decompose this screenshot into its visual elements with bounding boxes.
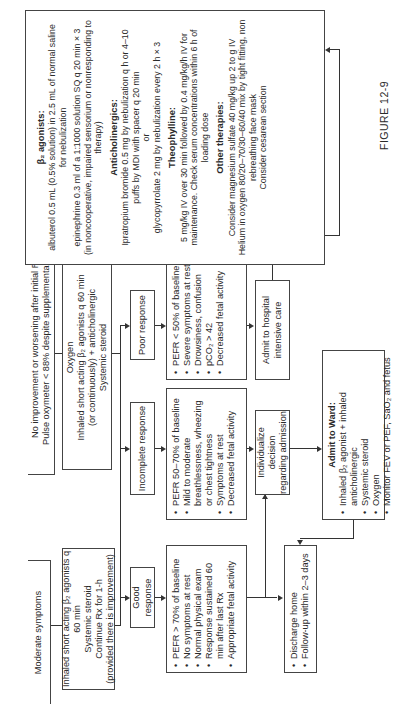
criteria-item: Appropriate fetal activity: [226, 551, 237, 667]
good-response-details: PEFR > 70% of baseline No symptoms at re…: [166, 545, 247, 673]
therapy-text: Helium in oxygen 80/20–70/30–60/40 mix b…: [237, 19, 258, 256]
criteria-item: Mild to moderate breathlessness, wheezin…: [182, 394, 215, 514]
admit-icu-box: Admit to hospital intensive care: [255, 280, 290, 380]
connector: [51, 625, 62, 626]
connector: [290, 448, 317, 449]
poor-response-box: Poor response: [130, 290, 155, 360]
therapy-text: Consider magnesium sulfate 40 mg/kg up 2…: [227, 19, 238, 256]
criteria-item: Symptoms at rest: [215, 394, 226, 514]
ward-title: Admit to Ward:: [327, 356, 338, 514]
connector: [353, 520, 354, 539]
therapy-text: glycopyrrolate 2 mg by nebulization ever…: [152, 19, 163, 256]
oxygen-rx-line: Systemic steroid: [98, 324, 109, 391]
discharge-home-box: Discharge home Follow-up within 2–3 days: [284, 545, 317, 673]
connector: [55, 353, 62, 354]
connector: [300, 538, 354, 539]
incomplete-response-box: Incomplete response: [130, 402, 155, 495]
icu-line: Admit to hospital: [261, 296, 272, 364]
moderate-symptoms: Moderate symptoms: [28, 560, 51, 704]
oxygen-rx-line: Inhaled short acting β₂ agonists q 60 mi…: [76, 274, 87, 440]
initial-rx-line: (provided there is improvement): [105, 554, 116, 684]
therapy-text: epinephrine 0.3 ml of a 1:1000 solution …: [72, 19, 83, 256]
criteria-item: No symptoms at rest: [182, 551, 193, 667]
connector: [247, 597, 277, 598]
criteria-item: PEFR > 70% of baseline: [171, 551, 182, 667]
initial-rx-line: Continue Rx for 1-h: [94, 579, 105, 659]
therapy-text: Ipratropium bromide 0.5 mg by nebulizati…: [120, 19, 141, 256]
individualize-decision-box: Individualize decision regarding admissi…: [255, 410, 290, 495]
good-response-box: Good response: [130, 567, 155, 628]
therapy-text: (in noncooperative, impaired sensorium o…: [83, 19, 104, 256]
criteria-item: PEFR 50–70% of baseline: [171, 394, 182, 514]
ward-item: Oxygen: [371, 356, 382, 514]
ward-item: Monitor FEV or PEF, SaO₂ and fetus: [382, 356, 393, 514]
criteria-item: Decreased fetal activity: [226, 394, 237, 514]
flowchart: Moderate symptoms Inhaled short acting β…: [0, 0, 404, 706]
figure-label: FIGURE 12-9: [378, 81, 391, 150]
initial-treatment-box: Inhaled short acting β₂ agonists q 60 mi…: [62, 548, 115, 690]
admit-to-ward-box: Admit to Ward: Inhaled β₂ agonist + inha…: [322, 350, 385, 520]
criteria-item: Severe symptoms at rest: [182, 261, 193, 374]
other-therapies-heading: Other therapies:: [214, 19, 225, 256]
no-improvement-line: No improvement or worsening after initia…: [30, 257, 41, 438]
therapy-text: albuterol 0.5 mL (0.5% solution) in 2.5 …: [47, 19, 68, 256]
therapy-text: or: [141, 19, 152, 256]
criteria-item: pCO₂ > 42: [204, 261, 215, 374]
arrow-down-icon: [278, 595, 283, 601]
theophylline-heading: Theophylline:: [166, 19, 177, 256]
oxygen-rx-line: (or continuously) + anticholinergic: [87, 289, 98, 426]
arrow-down-icon: [249, 446, 254, 452]
connector: [265, 493, 266, 598]
incomplete-response-details: PEFR 50–70% of baseline Mild to moderate…: [166, 388, 247, 520]
arrow-left-icon: [297, 540, 303, 545]
criteria-item: Decreased fetal activity: [215, 261, 226, 374]
connector: [330, 49, 340, 50]
ward-item: Inhaled β₂ agonist + inhaled anticholine…: [338, 356, 360, 514]
incomplete-response-label: Incomplete response: [137, 406, 148, 491]
arrow-up-icon: [325, 47, 330, 53]
criteria-item: Drowsiness, confusion: [193, 261, 204, 374]
oxygen-rx-line: Oxygen: [65, 342, 76, 374]
anticholinergics-heading: Anticholinergics:: [108, 19, 119, 256]
individualize-line: Individualize decision: [256, 411, 278, 494]
therapy-text: Consider cesarean section: [258, 19, 269, 256]
criteria-item: Normal physical exam: [193, 551, 204, 667]
poor-response-label: Poor response: [137, 295, 148, 355]
moderate-symptoms-label: Moderate symptoms: [33, 591, 44, 674]
discharge-item: Discharge home: [289, 551, 300, 667]
drug-therapy-box: β₂ agonists: albuterol 0.5 mL (0.5% solu…: [25, 10, 325, 265]
arrow-down-icon: [249, 323, 254, 329]
criteria-item: Response sustained 60 min after last Rx: [204, 551, 226, 667]
therapy-text: 5 mg/kg IV over 30 min followed by 0.4 m…: [179, 19, 211, 256]
initial-rx-line: Inhaled short acting β₂ agonists q 60 mi…: [61, 549, 83, 689]
icu-line: intensive care: [273, 302, 284, 359]
poor-response-details: PEFR < 50% of baseline Severe symptoms a…: [166, 255, 247, 380]
individualize-line: regarding admission: [278, 411, 289, 494]
discharge-item: Follow-up within 2–3 days: [300, 551, 311, 667]
no-improvement-line: Pulse oxymeter < 88% despite supplementa…: [41, 250, 52, 445]
good-response-label: Good response: [131, 568, 153, 627]
criteria-item: PEFR < 50% of baseline: [171, 261, 182, 374]
connector: [120, 326, 121, 626]
connector: [339, 50, 340, 236]
beta-agonists-heading: β₂ agonists:: [35, 19, 46, 256]
oxygen-treatment-box: Oxygen Inhaled short acting β₂ agonists …: [62, 245, 112, 470]
ward-item: Systemic steroid: [360, 356, 371, 514]
initial-rx-line: Systemic steroid: [83, 585, 94, 652]
